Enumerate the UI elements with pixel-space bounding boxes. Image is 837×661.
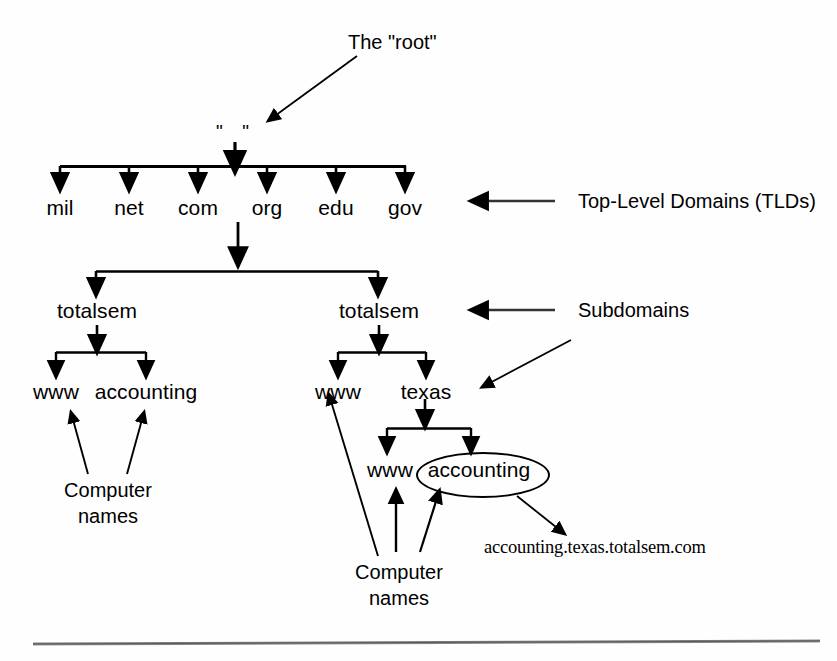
subdomains-annotation-label: Subdomains <box>578 300 689 320</box>
right-host-bus <box>338 352 426 370</box>
fqdn-callout-arrow <box>517 496 561 531</box>
computer-names-right-line2: names <box>355 586 443 612</box>
host-node-accounting-left[interactable]: accounting <box>95 381 198 402</box>
bottom-divider <box>33 639 820 645</box>
subdomains-to-texas-arrow <box>486 340 571 385</box>
accounting-highlight-ellipse <box>416 452 550 498</box>
left-computer-names-arrows <box>72 416 143 474</box>
tld-bus <box>60 166 406 183</box>
fqdn-label: accounting.texas.totalsem.com <box>484 538 706 557</box>
tld-node-com[interactable]: com <box>178 197 218 218</box>
computer-names-right-line1: Computer <box>355 560 443 586</box>
host-node-www-right[interactable]: www <box>315 381 361 402</box>
dns-hierarchy-diagram: The "root" " " mil net com org edu gov T… <box>0 0 837 661</box>
subdomain-bus <box>96 271 378 288</box>
subdomain-node-texas[interactable]: texas <box>401 381 452 402</box>
tld-node-net[interactable]: net <box>114 197 144 218</box>
tld-annotation-label: Top-Level Domains (TLDs) <box>578 191 816 211</box>
computer-names-left-line1: Computer <box>64 478 152 504</box>
tld-node-edu[interactable]: edu <box>318 197 353 218</box>
root-callout-label: The "root" <box>348 32 437 52</box>
tld-node-gov[interactable]: gov <box>388 197 422 218</box>
host-node-www-texas[interactable]: www <box>367 459 413 480</box>
computer-names-label-left: Computer names <box>64 478 152 529</box>
texas-child-bus <box>387 428 471 446</box>
left-host-bus <box>56 352 146 370</box>
subdomain-node-totalsem-left[interactable]: totalsem <box>57 300 137 321</box>
root-node-label: " " <box>216 122 256 141</box>
tld-node-mil[interactable]: mil <box>46 197 73 218</box>
root-callout-arrow <box>272 56 357 118</box>
computer-names-left-line2: names <box>64 504 152 530</box>
tld-node-org[interactable]: org <box>252 197 283 218</box>
subdomain-node-totalsem-right[interactable]: totalsem <box>339 300 419 321</box>
host-node-www-left[interactable]: www <box>33 381 79 402</box>
computer-names-label-right: Computer names <box>355 560 443 611</box>
